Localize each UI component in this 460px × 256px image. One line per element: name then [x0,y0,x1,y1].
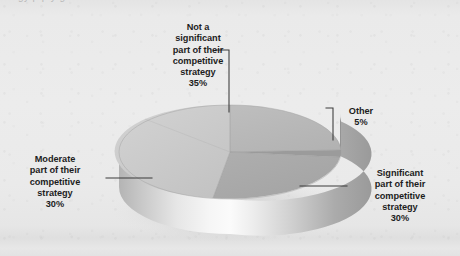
pie-top-face [115,105,341,199]
callout-label-other: Other [349,106,373,116]
callout-other: Other 5% [328,95,394,140]
callout-percent-other: 5% [328,117,394,128]
callout-percent-not-a-significant-part: 35% [150,78,246,89]
callout-percent-moderate-part: 30% [6,199,104,210]
pie-chart-figure: gy p p y g [0,0,460,256]
callout-moderate-part: Moderate part of their competitive strat… [6,143,104,221]
callout-significant-part: Significant part of their competitive st… [348,157,452,235]
callout-percent-significant-part: 30% [348,213,452,224]
callout-label-significant-part: Significant part of their competitive st… [375,168,426,212]
callout-label-moderate-part: Moderate part of their competitive strat… [30,154,81,198]
callout-not-a-significant-part: Not a significant part of their competit… [150,11,246,101]
callout-label-not-a-significant-part: Not a significant part of their competit… [173,22,224,77]
slice-not-a-significant-part [230,105,341,152]
